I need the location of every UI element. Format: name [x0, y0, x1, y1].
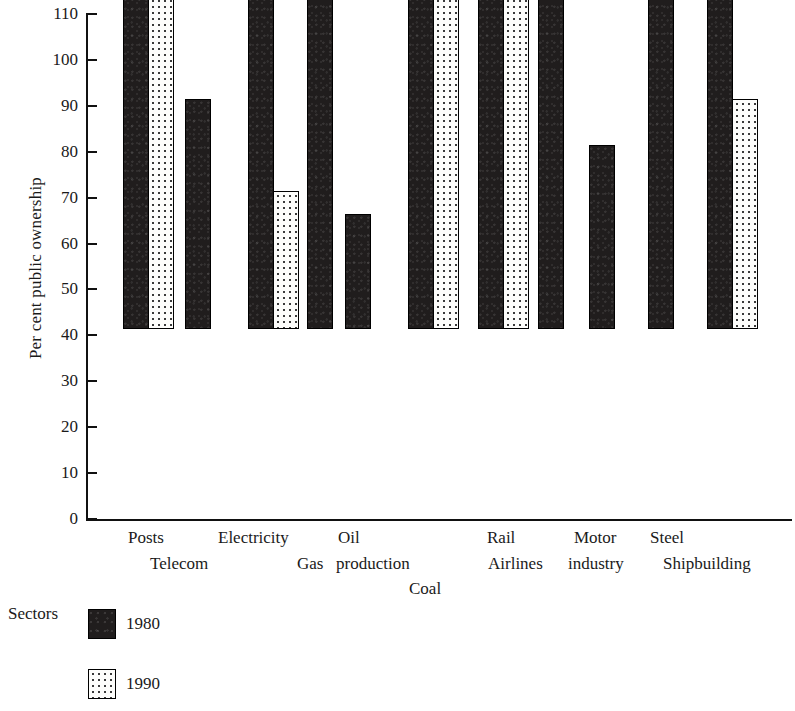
- x-axis-label: Telecom: [150, 555, 208, 572]
- legend-label-1980: 1980: [126, 615, 160, 632]
- legend-label-1990: 1990: [126, 675, 160, 692]
- bar: [732, 99, 758, 329]
- bar-chart: Per cent public ownership 11010090807060…: [0, 0, 795, 711]
- x-axis-label: industry: [568, 555, 624, 572]
- bar: [345, 214, 371, 329]
- x-axis-label: Posts: [128, 529, 164, 546]
- bar: [478, 0, 504, 329]
- x-axis-label: Coal: [409, 580, 441, 597]
- x-axis-label: Shipbuilding: [663, 555, 751, 572]
- bar: [589, 145, 615, 329]
- bar: [648, 0, 674, 329]
- legend-swatch-1990: [88, 669, 116, 699]
- bars-layer: [0, 0, 795, 521]
- x-axis-label: Airlines: [488, 555, 543, 572]
- bar: [248, 0, 274, 329]
- x-axis-label: Oil: [338, 529, 360, 546]
- bar: [707, 0, 733, 329]
- x-axis-label: Electricity: [218, 529, 289, 546]
- bar: [123, 0, 149, 329]
- bar: [307, 0, 333, 329]
- x-axis-title: Sectors: [8, 604, 58, 624]
- bar: [433, 0, 459, 329]
- bar: [148, 0, 174, 329]
- x-axis-label: production: [336, 555, 410, 572]
- x-axis-label: Motor: [574, 529, 617, 546]
- legend-swatch-1980: [88, 609, 116, 639]
- bar: [503, 0, 529, 329]
- bar: [408, 0, 434, 329]
- x-axis-label: Gas: [297, 555, 323, 572]
- bar: [185, 99, 211, 329]
- bar: [273, 191, 299, 329]
- x-axis-label: Rail: [487, 529, 515, 546]
- bar: [538, 0, 564, 329]
- x-axis-label: Steel: [650, 529, 684, 546]
